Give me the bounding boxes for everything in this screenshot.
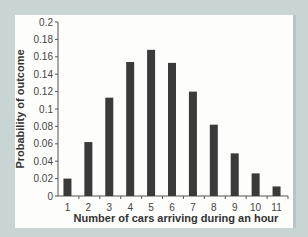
y-tick-label: 0.18: [34, 34, 54, 45]
bar: [105, 98, 113, 196]
y-axis: 00.020.040.060.080.10.120.140.160.180.2: [34, 17, 58, 202]
bar: [147, 50, 155, 196]
y-tick-label: 0.2: [39, 17, 53, 28]
bar: [189, 92, 197, 196]
bar: [252, 173, 260, 196]
y-tick-label: 0: [47, 191, 53, 202]
y-tick-label: 0.02: [34, 173, 54, 184]
y-axis-title: Probability of outcome: [14, 49, 26, 168]
y-tick-label: 0.14: [34, 69, 54, 80]
bar: [168, 63, 176, 196]
y-tick-label: 0.04: [34, 156, 54, 167]
bar: [273, 186, 281, 196]
x-tick-label: 1: [65, 202, 71, 213]
y-tick-label: 0.08: [34, 121, 54, 132]
x-axis-title: Number of cars arriving during an hour: [74, 212, 279, 224]
bar: [84, 142, 92, 196]
bar: [210, 125, 218, 196]
x-axis: 1234567891011: [58, 196, 288, 213]
bar: [231, 153, 239, 196]
bar: [126, 62, 134, 196]
y-tick-label: 0.06: [34, 138, 54, 149]
y-tick-label: 0.1: [39, 104, 53, 115]
y-tick-label: 0.16: [34, 51, 54, 62]
bars: [63, 50, 280, 196]
bar-chart: 00.020.040.060.080.10.120.140.160.180.2 …: [0, 0, 308, 237]
bar: [63, 179, 71, 196]
y-tick-label: 0.12: [34, 86, 54, 97]
